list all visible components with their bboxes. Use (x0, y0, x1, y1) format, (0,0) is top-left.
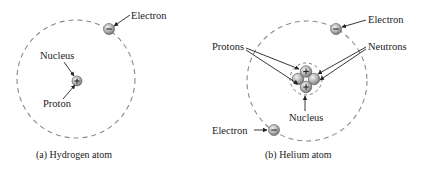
helium-electron-top (331, 24, 342, 35)
electron-arrow (114, 15, 130, 26)
protons-arrow-1 (246, 48, 299, 69)
proton (300, 66, 312, 78)
hydrogen-caption: (a) Hydrogen atom (36, 149, 112, 161)
hydrogen-proton-label: Proton (43, 98, 72, 109)
protons-arrow-2 (246, 50, 298, 84)
helium-nucleus-label: Nucleus (289, 112, 323, 123)
helium-atom: Electron Electron (212, 14, 407, 161)
helium-electron-top-label: Electron (368, 14, 404, 25)
hydrogen-electron (104, 24, 115, 35)
proton-arrow (63, 85, 75, 99)
helium-neutrons-label: Neutrons (368, 41, 407, 52)
neutrons-arrow-1 (318, 47, 366, 74)
hydrogen-atom: Electron Nucleus Proton (a) Hydrogen ato… (17, 10, 167, 161)
neutrons-arrow-2 (320, 49, 366, 80)
hydrogen-nucleus-label: Nucleus (40, 50, 74, 61)
helium-caption: (b) Helium atom (265, 149, 332, 161)
atom-diagram: Electron Nucleus Proton (a) Hydrogen ato… (0, 0, 425, 171)
hydrogen-electron-label: Electron (131, 10, 167, 21)
nucleus-arrow (64, 62, 74, 76)
helium-electron-bottom (269, 125, 280, 136)
hydrogen-proton (72, 76, 82, 86)
helium-protons-label: Protons (212, 41, 244, 52)
electron-top-arrow (342, 20, 366, 27)
helium-electron-bottom-label: Electron (212, 125, 248, 136)
proton (300, 81, 312, 93)
